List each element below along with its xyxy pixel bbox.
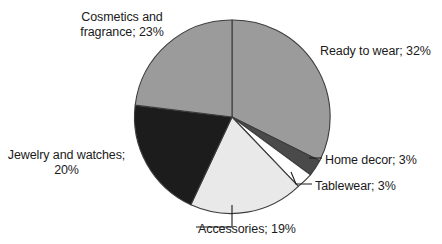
slice-label-ready-to-wear: Ready to wear; 32% [320, 44, 431, 59]
slice-label-jewelry-and-watches: Jewelry and watches; 20% [4, 148, 129, 178]
slice-label-home-decor: Home decor; 3% [325, 153, 417, 168]
slice-label-accessories: Accessories; 19% [198, 222, 296, 237]
pie-chart: Cosmetics and fragrance; 23% Ready to we… [0, 0, 442, 244]
slice-label-cosmetics-and-fragrance: Cosmetics and fragrance; 23% [57, 10, 187, 40]
slice-label-tablewear: Tablewear; 3% [315, 179, 396, 194]
